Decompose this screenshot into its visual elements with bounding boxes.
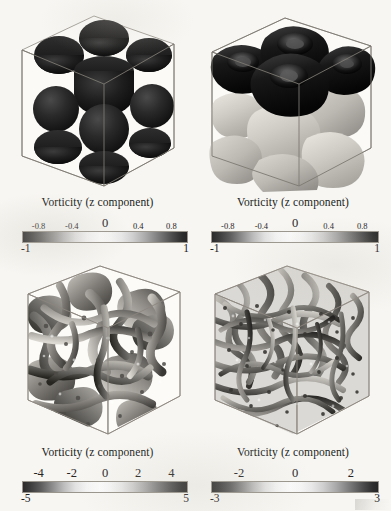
colorbar-endpoint-labels: -1 1	[22, 243, 188, 257]
colorbar-gradient	[22, 481, 188, 493]
colorbar-gradient	[22, 231, 188, 243]
panel-caption: Vorticity (z component)	[195, 196, 391, 208]
colorbar-tick-labels: -2 0 2	[211, 466, 379, 481]
colorbar-endpoint-labels: -5 5	[22, 493, 188, 507]
panel-top-right: Vorticity (z component) -0.8 -0.4 0 0.4 …	[195, 0, 391, 256]
volume-rendering-bottom-left	[20, 264, 188, 440]
panel-top-left: Vorticity (z component) -0.8 -0.4 0 0.4 …	[0, 0, 195, 256]
volume-rendering-top-right	[207, 14, 377, 192]
panel-bottom-left: Vorticity (z component) -4 -2 0 2 4 -5 5	[0, 256, 195, 511]
colorbar-top-right: -0.8 -0.4 0 0.4 0.8 -1 1	[211, 216, 379, 257]
panel-caption: Vorticity (z component)	[0, 196, 195, 208]
panel-caption: Vorticity (z component)	[0, 446, 195, 458]
colorbar-top-left: -0.8 -0.4 0 0.4 0.8 -1 1	[22, 216, 188, 257]
panel-caption: Vorticity (z component)	[195, 446, 391, 458]
colorbar-endpoint-labels: -3 3	[211, 493, 379, 507]
colorbar-tick-labels: -0.8 -0.4 0 0.4 0.8	[22, 216, 188, 231]
colorbar-bottom-right: -2 0 2 -3 3	[211, 466, 379, 507]
colorbar-gradient	[211, 231, 379, 243]
colorbar-gradient	[211, 481, 379, 493]
colorbar-endpoint-labels: -1 1	[211, 243, 379, 257]
colorbar-bottom-left: -4 -2 0 2 4 -5 5	[22, 466, 188, 507]
volume-rendering-top-left	[18, 14, 178, 192]
colorbar-tick-labels: -0.8 -0.4 0 0.4 0.8	[211, 216, 379, 231]
figure-panel-grid: Vorticity (z component) -0.8 -0.4 0 0.4 …	[0, 0, 391, 511]
panel-bottom-right: Vorticity (z component) -2 0 2 -3 3	[195, 256, 391, 511]
volume-rendering-bottom-right	[207, 264, 377, 440]
colorbar-tick-labels: -4 -2 0 2 4	[22, 466, 188, 481]
